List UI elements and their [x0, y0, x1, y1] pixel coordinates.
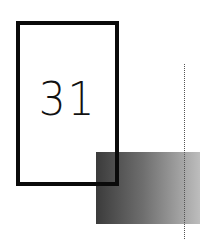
page-number: 31 [20, 76, 115, 122]
dotted-vertical-line [184, 64, 185, 239]
